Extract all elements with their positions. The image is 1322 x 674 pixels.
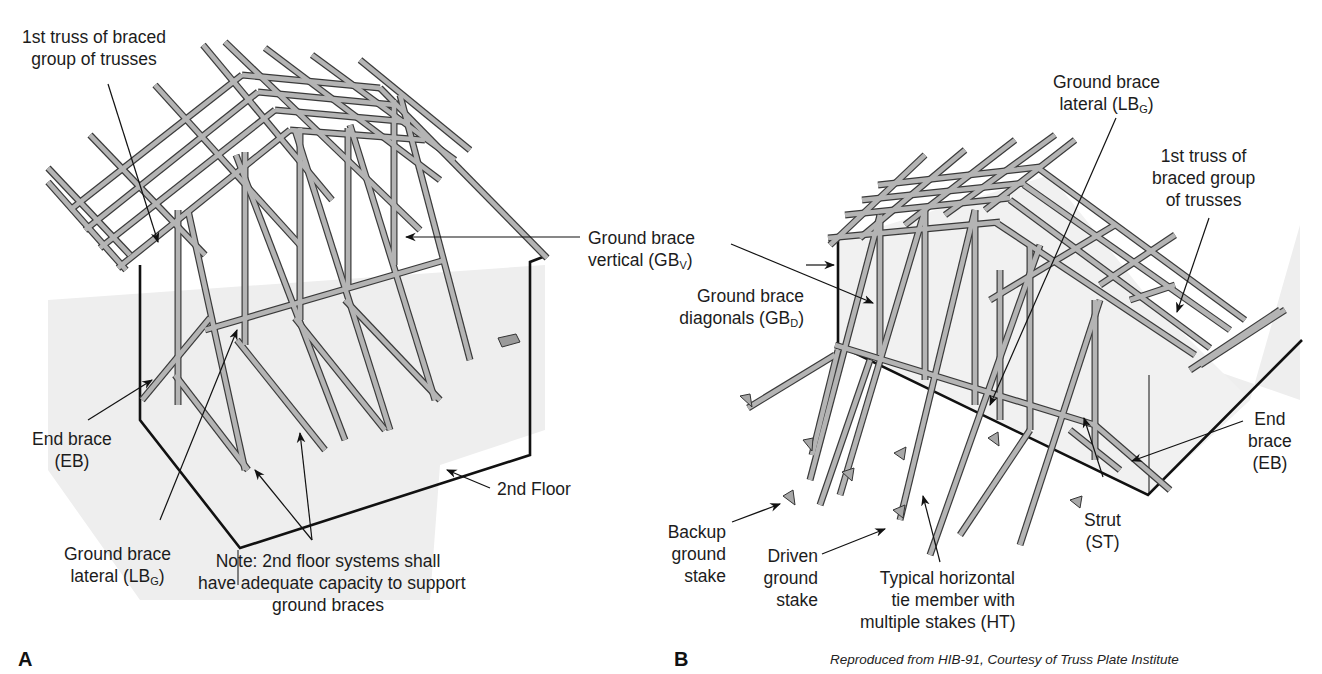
horizontal-tie-label: Typical horizontal tie member with multi…: [860, 567, 1015, 633]
label-line: lateral (LBG): [64, 565, 171, 592]
label-text: diagonals (GB: [679, 308, 790, 328]
label-line: ground: [760, 567, 818, 589]
label-text: ): [159, 566, 165, 586]
label-line: (ST): [1084, 531, 1121, 553]
label-text: ): [798, 308, 804, 328]
truss-bracing-figure: 1st truss of braced group of trusses Gro…: [0, 0, 1322, 674]
label-line: diagonals (GBD): [618, 307, 804, 334]
backup-ground-stake-label: Backup ground stake: [666, 521, 726, 587]
driven-ground-stake-label: Driven ground stake: [760, 545, 818, 611]
label-line: braced group: [1152, 167, 1255, 189]
label-line: Ground brace: [618, 285, 804, 307]
label-line: (EB): [32, 450, 112, 472]
panel-a-end-brace-label: End brace (EB): [32, 428, 112, 472]
panel-b-end-brace-label: End brace (EB): [1248, 408, 1292, 474]
panel-a-drawing: [48, 42, 580, 600]
label-line: End brace: [32, 428, 112, 450]
label-line: 1st truss of braced: [22, 26, 166, 48]
ground-brace-vertical-label: Ground brace vertical (GBV): [588, 227, 695, 276]
panel-a-letter: A: [18, 648, 32, 671]
label-line: Note: 2nd floor systems shall: [198, 550, 458, 572]
panel-a-ground-brace-lateral-label: Ground brace lateral (LBG): [64, 543, 171, 592]
label-line: tie member with: [860, 589, 1015, 611]
label-line: group of trusses: [22, 48, 166, 70]
label-text: vertical (GB: [588, 250, 679, 270]
ground-brace-diagonals-label: Ground brace diagonals (GBD): [618, 285, 804, 334]
label-line: Driven: [760, 545, 818, 567]
strut-label: Strut (ST): [1084, 509, 1121, 553]
label-text: ): [1148, 94, 1154, 114]
panel-b-letter: B: [674, 648, 688, 671]
subscript: G: [1139, 103, 1148, 115]
panel-b-ground-brace-lateral-label: Ground brace lateral (LBG): [1053, 71, 1160, 120]
label-text: ): [687, 250, 693, 270]
label-line: Backup: [666, 521, 726, 543]
label-line: Ground brace: [588, 227, 695, 249]
label-line: lateral (LBG): [1053, 93, 1160, 120]
label-line: of trusses: [1152, 189, 1255, 211]
label-line: stake: [666, 565, 726, 587]
label-line: have adequate capacity to support: [198, 572, 458, 594]
second-floor-label: 2nd Floor: [497, 478, 571, 500]
label-line: (EB): [1248, 452, 1292, 474]
label-text: lateral (LB: [70, 566, 150, 586]
panel-b-first-truss-label: 1st truss of braced group of trusses: [1152, 145, 1255, 211]
label-line: 1st truss of: [1152, 145, 1255, 167]
source-credit: Reproduced from HIB-91, Courtesy of Trus…: [830, 652, 1179, 667]
subscript: G: [150, 575, 159, 587]
label-line: multiple stakes (HT): [860, 611, 1015, 633]
second-floor-note: Note: 2nd floor systems shall have adequ…: [198, 550, 458, 616]
label-line: Ground brace: [1053, 71, 1160, 93]
subscript: V: [679, 259, 686, 271]
panel-a-first-truss-label: 1st truss of braced group of trusses: [22, 26, 166, 70]
label-text: lateral (LB: [1059, 94, 1139, 114]
label-line: End: [1248, 408, 1292, 430]
label-line: ground braces: [198, 594, 458, 616]
label-line: ground: [666, 543, 726, 565]
subscript: D: [790, 317, 798, 329]
label-line: vertical (GBV): [588, 249, 695, 276]
label-line: Ground brace: [64, 543, 171, 565]
label-line: stake: [760, 589, 818, 611]
label-line: Typical horizontal: [860, 567, 1015, 589]
label-line: Strut: [1084, 509, 1121, 531]
label-line: brace: [1248, 430, 1292, 452]
label-text: 2nd Floor: [497, 479, 571, 499]
